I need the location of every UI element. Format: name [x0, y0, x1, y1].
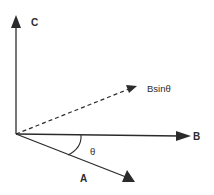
vector-c	[11, 15, 21, 134]
arrowhead-b-icon	[176, 131, 191, 141]
label-b: B	[193, 131, 200, 142]
vector-a	[16, 134, 135, 182]
arrowhead-c-icon	[11, 15, 21, 28]
vector-b	[16, 131, 191, 141]
vector-bsin-theta	[16, 85, 137, 134]
arrowhead-bsin-icon	[126, 85, 137, 93]
label-c: C	[31, 17, 38, 28]
label-theta: θ	[90, 146, 95, 157]
label-bsin-theta: Bsinθ	[147, 83, 171, 94]
vector-diagram: C B Bsinθ θ A	[0, 0, 214, 195]
angle-arc	[68, 135, 81, 155]
label-a: A	[80, 173, 87, 184]
